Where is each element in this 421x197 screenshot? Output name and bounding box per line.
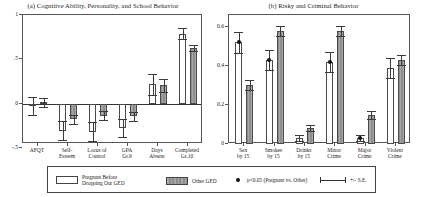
- x-axis-label: GPA Gr.9: [122, 147, 133, 159]
- error-bar-cap: [386, 58, 395, 59]
- panel-b-title: (b) Risky and Criminal Behavior: [206, 2, 421, 9]
- x-tick-mark: [67, 143, 68, 146]
- x-axis-label: Drinks by 15: [296, 147, 311, 159]
- x-axis-label: Minor Crime: [327, 147, 341, 159]
- legend-label-other: Other GED: [192, 178, 217, 184]
- error-bar-cap: [178, 28, 187, 29]
- chart-legend: Pregnant Before Dropping Out GED Other G…: [47, 166, 376, 193]
- error-bar-cap: [234, 53, 243, 54]
- legend-label-pregnant: Pregnant Before Dropping Out GED: [82, 174, 125, 186]
- error-bar-cap: [367, 119, 376, 120]
- error-bar-whisker: [250, 80, 251, 90]
- bar: [246, 85, 253, 144]
- x-tick-mark: [304, 143, 305, 146]
- error-bar-whisker: [123, 119, 124, 137]
- x-tick-mark: [334, 143, 335, 146]
- error-bar-cap: [28, 97, 37, 98]
- error-bar-cap: [295, 135, 304, 136]
- significance-marker-icon: [328, 60, 332, 64]
- error-bar-cap: [118, 119, 127, 120]
- error-bar-cap: [178, 39, 187, 40]
- y-tick-mark: [19, 103, 22, 104]
- panel-cognitive-ability: (a) Cognitive Ability, Personality, and …: [0, 0, 206, 160]
- error-bar-whisker: [74, 115, 75, 124]
- x-tick-mark: [274, 143, 275, 146]
- legend-swatch-gray-icon: [166, 177, 188, 185]
- bar: [266, 60, 273, 144]
- x-tick-mark: [395, 143, 396, 146]
- x-tick-mark: [157, 143, 158, 146]
- significance-marker-icon: [237, 40, 241, 44]
- error-bar-cap: [306, 131, 315, 132]
- x-axis-label: Sex by 15: [237, 147, 249, 159]
- x-axis-label: Major Crime: [358, 147, 372, 159]
- error-bar-cap: [306, 125, 315, 126]
- error-bar-whisker: [63, 121, 64, 141]
- legend-label-errorbar: +/- S.E.: [350, 177, 367, 183]
- error-bar-cap: [99, 120, 108, 121]
- error-bar-cap: [325, 72, 334, 73]
- y-tick-label: 1: [2, 11, 18, 17]
- error-bar-cap: [148, 95, 157, 96]
- error-bar-cap: [129, 121, 138, 122]
- significance-dot-icon: [236, 178, 240, 182]
- panel-a-title: (a) Cognitive Ability, Personality, and …: [0, 2, 206, 9]
- error-bar-whisker: [134, 112, 135, 121]
- error-bar-cap: [276, 26, 285, 27]
- error-bar-cap: [39, 107, 48, 108]
- error-bar-cap: [386, 78, 395, 79]
- y-tick-label: 0: [210, 140, 224, 146]
- x-tick-mark: [187, 143, 188, 146]
- legend-label-significance: p<0.05 (Pregnant vs. Other): [247, 177, 307, 183]
- error-bar-cap: [245, 90, 254, 91]
- bar: [398, 60, 405, 144]
- significance-marker-icon: [358, 136, 362, 140]
- error-bar-cap: [397, 65, 406, 66]
- x-axis-label: Self- Esteem: [59, 147, 75, 159]
- error-bar-whisker: [280, 26, 281, 36]
- bar: [235, 42, 242, 144]
- y-tick-mark: [19, 58, 22, 59]
- error-bar-cap: [28, 115, 37, 116]
- error-bar-cap: [58, 121, 67, 122]
- error-bar-cap: [159, 79, 168, 80]
- y-tick-label: .5: [2, 55, 18, 61]
- x-tick-mark: [97, 143, 98, 146]
- zero-baseline: [23, 104, 201, 105]
- y-tick-mark: [225, 143, 228, 144]
- error-bar-cap: [88, 141, 97, 142]
- bar: [179, 34, 186, 104]
- y-tick-mark: [19, 14, 22, 15]
- x-axis-label: Locus of Control: [87, 147, 106, 159]
- y-tick-mark: [225, 65, 228, 66]
- x-tick-mark: [127, 143, 128, 146]
- panel-risky-behavior: (b) Risky and Criminal Behavior 0.60.40.…: [206, 0, 421, 160]
- error-bar-whisker: [371, 111, 372, 119]
- legend-entry-other: Other GED: [166, 177, 217, 185]
- error-bar-cap: [325, 52, 334, 53]
- error-bar-cap: [276, 36, 285, 37]
- error-bar-cap: [245, 80, 254, 81]
- x-axis-label: AFQT: [30, 147, 44, 153]
- x-axis-label: Completed Gr.10: [175, 147, 199, 159]
- error-bar-cap: [129, 112, 138, 113]
- y-tick-mark: [19, 147, 22, 148]
- error-bar-whisker: [153, 74, 154, 95]
- y-tick-mark: [225, 26, 228, 27]
- error-bar-cap: [118, 137, 127, 138]
- bar: [326, 62, 333, 144]
- bar: [277, 31, 284, 144]
- error-bar-cap: [367, 111, 376, 112]
- error-bar-cap: [397, 55, 406, 56]
- error-bar-cap: [58, 140, 67, 141]
- error-bar-whisker: [341, 26, 342, 36]
- y-tick-label: -.5: [2, 144, 18, 150]
- x-axis-label: Days Absent: [149, 147, 165, 159]
- y-tick-label: 0.4: [210, 62, 224, 68]
- error-bar-cap: [356, 141, 365, 142]
- legend-entry-errorbar: +/- S.E.: [320, 176, 367, 184]
- x-axis-label: Smokes by 15: [265, 147, 282, 159]
- error-bar-cap: [39, 98, 48, 99]
- error-bar-whisker: [390, 58, 391, 78]
- bar: [387, 68, 394, 144]
